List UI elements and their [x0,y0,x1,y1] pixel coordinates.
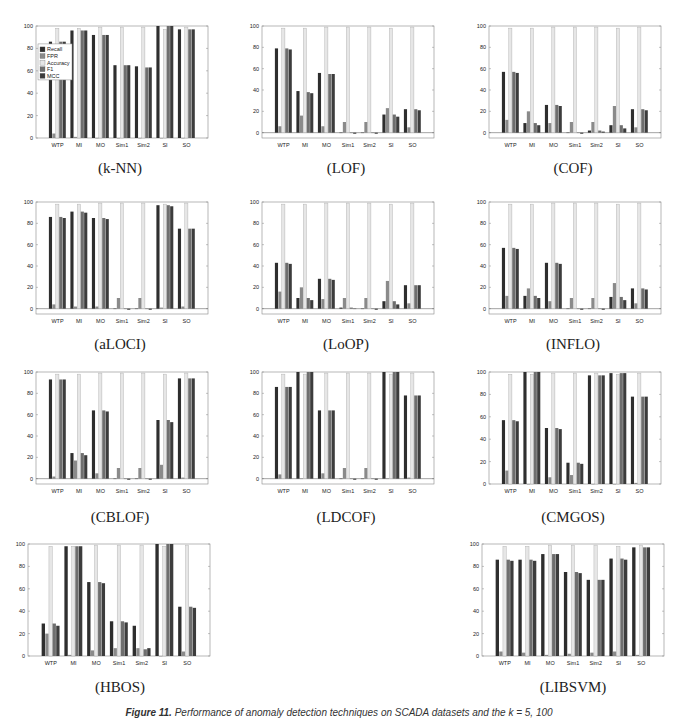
bar-accuracy-wtp [503,546,506,656]
y-tick-label: 0 [256,476,259,482]
bar-recall-si [609,125,612,132]
bar-mcc-si [170,422,173,479]
x-tick-label: SO [183,660,192,666]
bar-accuracy-si [616,28,619,133]
bar-fpr-so [407,478,410,479]
x-tick-label: MI [529,318,536,324]
y-tick-label: 0 [256,130,259,136]
bar-recall-si [382,301,385,308]
bar-recall-sim1 [113,65,116,138]
bar-fpr-sim2 [364,468,367,479]
bar-recall-sim2 [135,66,138,138]
bar-accuracy-sim1 [346,373,349,479]
y-tick-label: 100 [24,199,33,205]
bar-accuracy-si [163,204,166,309]
y-tick-label: 80 [19,563,25,569]
y-tick-label: 20 [27,113,33,119]
legend-swatch-recall [40,47,45,52]
chart-cmgos: 020406080100WTPMIMOSim1Sim2SISO [467,368,667,498]
bar-f1-si [620,559,623,656]
bar-f1-sim1 [350,308,353,309]
bar-accuracy-mi [530,374,533,484]
bar-fpr-so [181,478,184,479]
bar-mcc-wtp [289,387,292,479]
bar-mcc-si [623,300,626,309]
y-tick-label: 40 [473,608,479,614]
bar-f1-sim2 [598,580,601,656]
bar-f1-wtp [53,624,56,656]
y-tick-label: 20 [19,631,25,637]
bar-accuracy-so [411,203,414,309]
bar-f1-wtp [507,560,510,656]
bar-fpr-mi [522,653,525,656]
bar-mcc-sim1 [353,479,356,480]
y-tick-label: 100 [250,369,259,375]
bar-fpr-wtp [505,471,508,484]
y-tick-label: 60 [27,68,33,74]
x-tick-label: MO [96,488,106,494]
x-tick-label: Sim1 [113,660,126,666]
bar-fpr-si [386,108,389,133]
x-tick-label: MO [322,318,332,324]
bar-f1-wtp [285,263,288,309]
bar-accuracy-sim1 [346,27,349,133]
bar-f1-mi [81,453,84,479]
bar-fpr-si [613,106,616,133]
bar-fpr-wtp [45,634,48,656]
bar-f1-mi [534,372,537,484]
bar-f1-mi [81,30,84,138]
bar-recall-mi [518,560,521,656]
x-tick-label: MO [96,318,106,324]
chart-libsvm: 020406080100WTPMIMOSim1Sim2SISO [460,540,670,670]
bar-accuracy-si [389,374,392,479]
bar-accuracy-wtp [282,374,285,479]
bar-recall-so [404,395,407,478]
bar-mcc-si [623,373,626,484]
bar-f1-si [620,125,623,132]
bar-recall-mo [541,554,544,656]
bar-accuracy-sim1 [573,27,576,133]
y-tick-label: 0 [22,653,25,659]
figure-caption: Figure 11. Performance of anomaly detect… [0,707,678,718]
bar-accuracy-mi [303,374,306,479]
caption-cof: (COF) [483,160,663,177]
x-tick-label: Sim1 [116,318,129,324]
y-tick-label: 0 [483,306,486,312]
bar-mcc-so [193,608,196,656]
chart-inflo-svg: 020406080100WTPMIMOSim1Sim2SISO [467,198,667,328]
bar-accuracy-mo [94,545,97,656]
bar-fpr-sim1 [570,475,573,484]
bar-fpr-sim1 [568,654,571,656]
bar-fpr-sim1 [343,298,346,309]
bar-recall-si [382,372,385,479]
bar-recall-wtp [49,217,52,309]
bar-accuracy-so [638,203,641,309]
bar-recall-so [178,378,181,478]
y-tick-label: 80 [480,44,486,50]
chart-hbos: 020406080100WTPMIMOSim1Sim2SISO [6,540,216,670]
bar-recall-si [155,544,158,656]
bar-recall-mi [70,453,73,479]
bar-accuracy-mo [99,203,102,309]
bar-recall-so [178,229,181,309]
bar-f1-mi [534,296,537,309]
bar-mcc-wtp [516,421,519,484]
bar-mcc-mo [556,554,559,656]
x-tick-label: Sim1 [569,488,582,494]
y-tick-label: 0 [483,481,486,487]
bar-mcc-si [396,117,399,133]
x-tick-label: Sim1 [567,660,580,666]
bar-f1-so [641,288,644,308]
bar-fpr-mo [548,477,551,484]
bar-mcc-mo [332,280,335,309]
figure-caption-label: Figure 11. [125,707,172,718]
bar-f1-sim2 [144,649,147,656]
bar-recall-mi [296,298,299,309]
bar-mcc-wtp [56,626,59,656]
bar-accuracy-wtp [56,374,59,479]
bar-mcc-sim1 [580,133,583,134]
bar-fpr-so [407,303,410,308]
bar-f1-wtp [285,387,288,479]
bar-mcc-wtp [289,264,292,309]
legend-label-accuracy: Accuracy [47,60,70,66]
